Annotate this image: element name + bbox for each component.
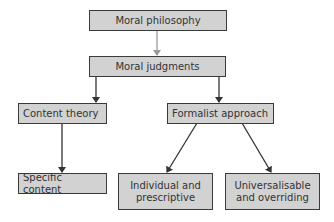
node-moral-judgments: Moral judgments bbox=[89, 56, 226, 77]
node-formalist-approach: Formalist approach bbox=[167, 103, 274, 124]
node-label: Specific content bbox=[23, 172, 102, 196]
node-individual-prescriptive: Individual and prescriptive bbox=[118, 173, 213, 210]
node-moral-philosophy: Moral philosophy bbox=[89, 10, 227, 31]
node-label-line1: Universalisable bbox=[234, 180, 310, 192]
node-universalisable-overriding: Universalisable and overriding bbox=[225, 173, 320, 210]
node-label: Content theory bbox=[23, 108, 99, 120]
node-label-line1: Individual and bbox=[130, 180, 201, 192]
node-label-line2: and overriding bbox=[236, 192, 309, 204]
node-content-theory: Content theory bbox=[18, 103, 107, 124]
arrow-formalist-to-universalisable bbox=[242, 123, 271, 172]
arrow-formalist-to-individual bbox=[167, 123, 197, 172]
node-label: Moral judgments bbox=[115, 61, 199, 73]
node-label-line2: prescriptive bbox=[136, 192, 195, 204]
node-specific-content: Specific content bbox=[18, 173, 107, 194]
node-label: Moral philosophy bbox=[115, 15, 200, 27]
node-label: Formalist approach bbox=[172, 108, 268, 120]
